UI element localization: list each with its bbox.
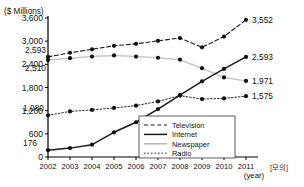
start-value-label-television: 2,593 [25, 45, 46, 55]
data-point-newspaper [156, 56, 160, 60]
legend-label-newspaper[interactable]: Newspaper [172, 140, 210, 149]
data-point-newspaper [222, 75, 226, 79]
end-value-label-radio: 1,575 [252, 91, 273, 101]
series-line-radio [48, 96, 246, 116]
y-axis-tick-label: 0 [38, 152, 43, 162]
chart-annotations: [모의] [270, 163, 288, 172]
data-point-radio [200, 97, 204, 101]
data-point-radio [112, 106, 116, 110]
x-axis-tick-label: 2002 [40, 162, 57, 171]
x-axis-title: (year) [244, 171, 265, 180]
data-point-internet [68, 146, 72, 150]
data-point-television [134, 42, 138, 46]
data-point-newspaper [244, 79, 248, 83]
data-point-radio [156, 99, 160, 103]
x-axis-tick-label: 2008 [172, 162, 189, 171]
chart-legend[interactable]: TelevisionInternetNewspaperRadio [139, 116, 235, 158]
end-value-label-internet: 2,593 [252, 52, 273, 62]
data-point-internet [112, 130, 116, 134]
y-axis-tick-label: 1,800 [22, 83, 44, 93]
data-point-radio [134, 104, 138, 108]
data-point-radio [222, 96, 226, 100]
data-point-television [68, 51, 72, 55]
legend-label-radio[interactable]: Radio [172, 149, 191, 158]
data-point-television [200, 45, 204, 49]
end-value-label-newspaper: 1,971 [252, 76, 273, 86]
start-value-label-internet: 176 [23, 138, 37, 148]
data-point-radio [68, 109, 72, 113]
series-line-newspaper [48, 55, 246, 80]
start-value-label-newspaper: 2,510 [25, 63, 46, 73]
data-point-newspaper [178, 58, 182, 62]
source-watermark: [모의] [270, 163, 288, 172]
data-point-newspaper [112, 53, 116, 57]
data-point-television [112, 44, 116, 48]
x-axis-tick-label: 2010 [216, 162, 233, 171]
data-point-internet [222, 67, 226, 71]
x-axis-tick-label: 2005 [106, 162, 123, 171]
legend-label-television[interactable]: Television [172, 121, 204, 130]
x-axis-tick-label: 2007 [150, 162, 167, 171]
data-point-radio [90, 108, 94, 112]
data-point-television [244, 18, 248, 22]
data-point-internet [244, 55, 248, 59]
data-point-internet [46, 148, 50, 152]
x-axis-tick-label: 2004 [84, 162, 101, 171]
series-line-television [48, 20, 246, 57]
data-point-radio [244, 94, 248, 98]
data-point-television [178, 36, 182, 40]
data-point-television [156, 39, 160, 43]
x-axis-tick-label: 2009 [194, 162, 211, 171]
data-point-radio [46, 113, 50, 117]
data-point-television [90, 47, 94, 51]
legend-label-internet[interactable]: Internet [172, 130, 197, 139]
data-point-newspaper [90, 55, 94, 59]
y-axis-tick-label: 3,600 [22, 13, 44, 23]
data-point-internet [200, 79, 204, 83]
data-point-internet [134, 120, 138, 124]
x-axis-tick-label: 2006 [128, 162, 145, 171]
end-value-label-television: 3,552 [252, 15, 273, 25]
data-point-television [222, 34, 226, 38]
x-axis-tick-label: 2003 [62, 162, 79, 171]
data-point-newspaper [68, 56, 72, 60]
data-point-internet [90, 143, 94, 147]
data-point-television [46, 55, 50, 59]
start-value-label-radio: 1,080 [23, 103, 44, 113]
data-point-internet [156, 107, 160, 111]
x-axis-tick-label: 2011 [238, 162, 254, 171]
data-point-newspaper [134, 55, 138, 59]
data-point-internet [178, 93, 182, 97]
data-point-newspaper [200, 66, 204, 70]
line-chart: ($ Millions)06001,2001,8002,4003,0003,60… [0, 0, 304, 187]
chart-container: ($ Millions)06001,2001,8002,4003,0003,60… [0, 0, 304, 187]
